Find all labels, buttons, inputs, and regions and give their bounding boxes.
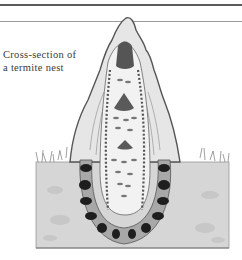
termite-nest-illustration [0, 0, 242, 260]
royal-chamber-top [116, 42, 134, 70]
